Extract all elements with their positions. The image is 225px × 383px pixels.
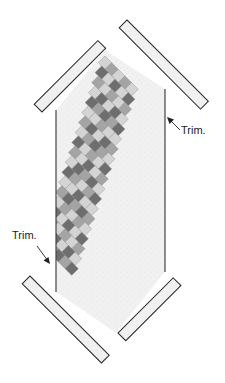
quilt-diagram xyxy=(0,0,225,383)
trim-label-left: Trim. xyxy=(12,229,37,241)
patch-square xyxy=(39,235,52,248)
patch-square xyxy=(42,225,55,238)
trim-label-right: Trim. xyxy=(181,124,206,136)
arrow-left-icon xyxy=(37,246,50,264)
arrow-right-icon xyxy=(167,117,180,130)
